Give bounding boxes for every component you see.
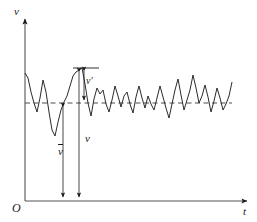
mean-velocity-symbol: v bbox=[58, 145, 63, 157]
overbar bbox=[58, 144, 64, 145]
fluctuation-velocity-label: v′ bbox=[86, 76, 93, 86]
origin-label: O bbox=[12, 202, 21, 214]
y-axis-label: v bbox=[14, 6, 19, 17]
velocity-trace bbox=[25, 68, 232, 136]
mean-velocity-label: v bbox=[58, 146, 63, 157]
instant-velocity-label: v bbox=[85, 133, 90, 144]
x-axis-label: t bbox=[243, 206, 246, 217]
turbulence-velocity-figure: v O t v v v′ bbox=[0, 0, 257, 222]
plot-canvas bbox=[0, 0, 257, 222]
